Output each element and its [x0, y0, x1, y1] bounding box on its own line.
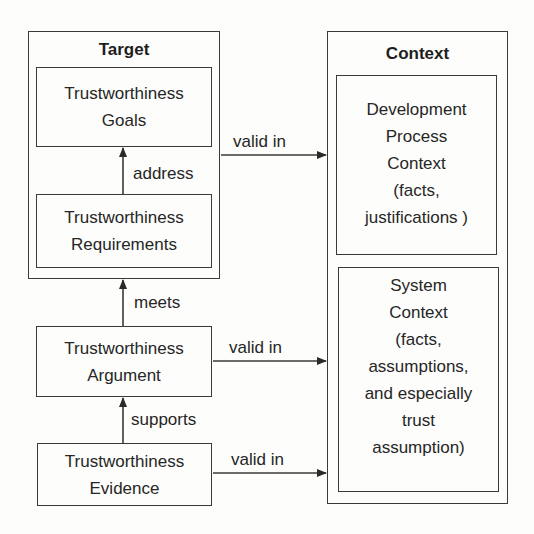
meets-label: meets: [134, 293, 180, 313]
supports-label: supports: [131, 410, 196, 430]
argument-valid-in-label: valid in: [229, 338, 282, 358]
evidence-valid-in-label: valid in: [231, 450, 284, 470]
address-label: address: [133, 164, 193, 184]
target-valid-in-label: valid in: [233, 132, 286, 152]
